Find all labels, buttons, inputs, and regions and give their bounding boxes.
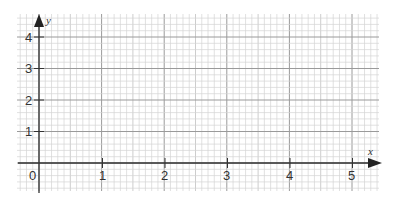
x-tick-label-4: 4	[286, 168, 293, 183]
x-axis-label: x	[367, 145, 373, 157]
x-tick-label-5: 5	[348, 168, 355, 183]
x-tick-label-2: 2	[161, 168, 168, 183]
coordinate-grid: x y 0 1 2 3 4 5 1 2 3 4	[0, 0, 398, 200]
x-tick-label-0: 0	[29, 168, 36, 183]
x-tick-label-3: 3	[223, 168, 230, 183]
graph-paper-grid	[17, 14, 379, 191]
y-axis-arrow-icon	[34, 14, 44, 27]
y-tick-label-4: 4	[25, 30, 32, 45]
y-tick-label-2: 2	[25, 93, 32, 108]
x-axis-arrow-icon	[368, 158, 382, 168]
y-axis-label: y	[45, 14, 51, 26]
y-tick-label-3: 3	[25, 61, 32, 76]
y-tick-label-1: 1	[25, 124, 32, 139]
x-tick-label-1: 1	[99, 168, 106, 183]
